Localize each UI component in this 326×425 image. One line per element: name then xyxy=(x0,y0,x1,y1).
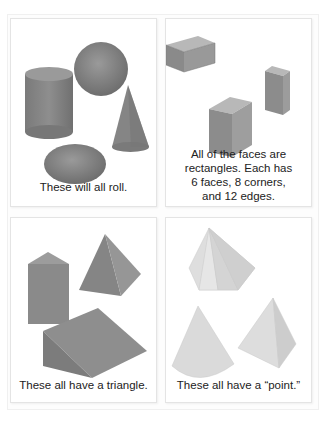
cylinder-shape xyxy=(25,67,73,139)
card-caption: All of the faces are rectangles. Each ha… xyxy=(166,147,311,203)
cone-shape xyxy=(112,85,149,152)
ellipsoid-shape xyxy=(44,144,106,184)
card-caption: These will all roll. xyxy=(11,180,156,194)
triangular-prism-shape xyxy=(28,252,69,324)
hexagonal-pyramid-shape xyxy=(189,228,255,290)
rectangular-prism-shape xyxy=(265,66,290,115)
card-rectangular-prisms: All of the faces are rectangles. Each ha… xyxy=(165,18,312,207)
triangular-pyramid-shape xyxy=(238,298,296,368)
rectangular-prism-shape xyxy=(166,36,215,72)
square-pyramid-shape xyxy=(79,234,141,296)
card-point: These all have a “point.” xyxy=(165,217,312,403)
card-caption: These all have a triangle. xyxy=(11,378,156,392)
card-triangle: These all have a triangle. xyxy=(10,217,157,403)
card-caption: These all have a “point.” xyxy=(166,378,311,392)
card-roll: These will all roll. xyxy=(10,18,157,207)
sphere-shape xyxy=(74,42,128,96)
cone-shape xyxy=(172,306,234,378)
